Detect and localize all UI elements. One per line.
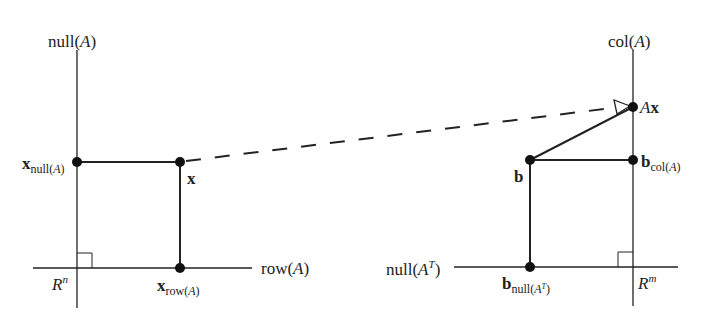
point-b-null	[525, 262, 535, 272]
label-b-null-AT: bnull(AT)	[502, 275, 550, 295]
left-right-angle-marker	[77, 253, 92, 268]
label-b: b	[514, 168, 523, 185]
point-x-row	[175, 263, 185, 273]
diagram-graphics	[0, 0, 704, 331]
label-x: x	[187, 170, 196, 187]
subspace-diagram: null(A) row(A) Rn xnull(A) x xrow(A) col…	[0, 0, 704, 331]
right-right-angle-marker	[618, 252, 633, 267]
point-b-col	[628, 155, 638, 165]
label-null-AT: null(AT)	[386, 259, 440, 278]
label-b-col-A: bcol(A)	[641, 153, 680, 173]
label-R-m: Rm	[638, 273, 656, 292]
label-row-A: row(A)	[261, 260, 309, 277]
label-null-A: null(A)	[48, 33, 96, 50]
label-x-null-A: xnull(A)	[22, 155, 65, 175]
label-R-n: Rn	[52, 274, 68, 293]
label-col-A: col(A)	[608, 33, 651, 50]
point-b	[525, 155, 535, 165]
point-x-null	[72, 157, 82, 167]
point-x	[175, 157, 185, 167]
label-x-row-A: xrow(A)	[157, 277, 200, 297]
label-Ax: Ax	[640, 99, 659, 116]
mapping-arrow-dashed	[186, 108, 612, 161]
b-to-Ax-segment	[530, 107, 633, 160]
point-Ax	[628, 102, 638, 112]
